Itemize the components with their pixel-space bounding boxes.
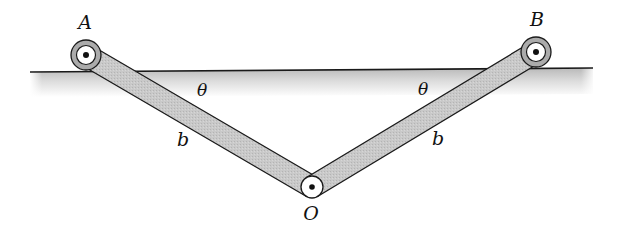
pivot-B [521, 37, 551, 67]
pin-dot-O [309, 184, 315, 190]
label-point-A: A [78, 13, 92, 32]
label-point-O: O [303, 204, 319, 223]
label-point-B: B [530, 10, 544, 29]
bar-BO [307, 43, 542, 197]
linkage-diagram: A B O θ θ b b [0, 0, 625, 241]
label-length-b-left: b [177, 130, 189, 149]
pin-dot-A [83, 52, 89, 58]
joint-O [301, 176, 323, 198]
pin-dot-B [533, 49, 539, 55]
pivot-A [71, 40, 101, 70]
bar-AO [81, 46, 318, 197]
label-length-b-right: b [432, 129, 444, 148]
label-angle-theta-right: θ [418, 81, 428, 98]
label-angle-theta-left: θ [197, 82, 207, 99]
